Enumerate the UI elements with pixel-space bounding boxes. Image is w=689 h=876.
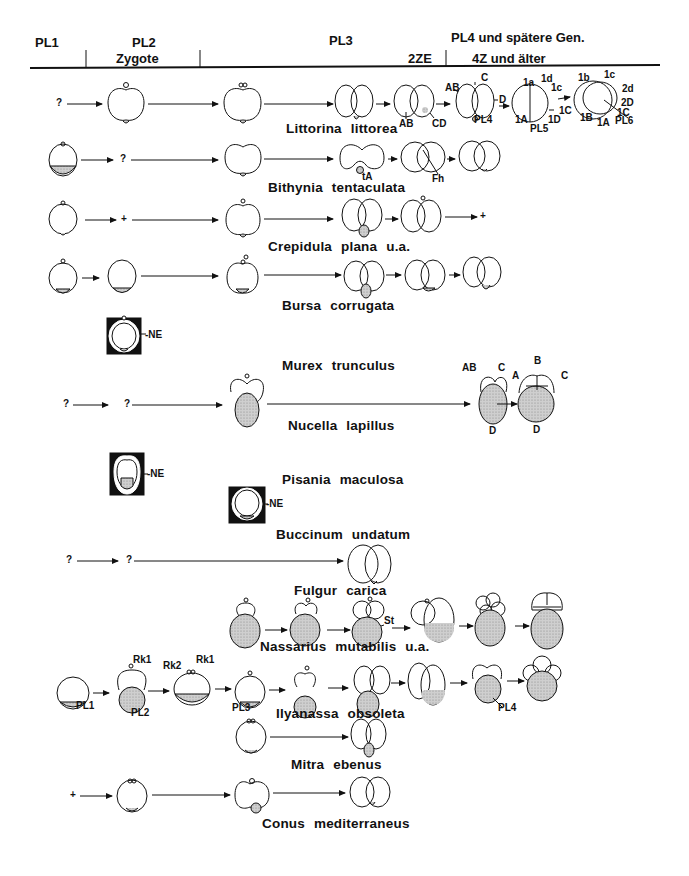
row-mitra: [236, 719, 386, 757]
cell-label: 1A: [597, 117, 610, 128]
cell-label: 2d: [622, 83, 634, 94]
cell-label: CD: [432, 118, 446, 129]
species-mitra-ebenus: Mitra ebenus: [291, 757, 382, 772]
cell-label: 1c: [604, 69, 615, 80]
species-nucella-lapillus: Nucella lapillus: [288, 418, 394, 433]
unknown-marker: ?: [124, 398, 130, 409]
unknown-marker: ?: [120, 153, 126, 164]
species-ilyanassa-obsoleta: Ilyanassa obsoleta: [276, 706, 405, 721]
cell-label: D: [533, 424, 540, 435]
cell-label: PL5: [530, 123, 548, 134]
row-conus: [80, 777, 390, 813]
cell-label: B: [534, 355, 541, 366]
species-buccinum-undatum: Buccinum undatum: [276, 527, 410, 542]
cell-label: Rk1: [196, 654, 214, 665]
cell-label: tA: [362, 171, 373, 182]
unknown-marker: ?: [63, 398, 69, 409]
row-murex: [107, 316, 146, 354]
species-conus-mediterraneus: Conus mediterraneus: [262, 816, 410, 831]
species-littorina-littorea: Littorina littorea: [286, 121, 397, 136]
cell-label: St: [384, 615, 394, 626]
species-nassarius-mutabilis: Nassarius mutabilis u.a.: [260, 639, 429, 654]
unknown-marker: ?: [56, 97, 62, 108]
ne-label: -NE: [266, 498, 283, 509]
row-fulgur: [77, 545, 391, 584]
cell-label: 1b: [578, 72, 590, 83]
cell-label: 1a: [523, 77, 534, 88]
cell-label: Rk2: [163, 660, 181, 671]
cell-label: C: [481, 72, 488, 83]
species-pisania-maculosa: Pisania maculosa: [282, 472, 404, 487]
cell-label: 1A: [515, 114, 528, 125]
cell-label: D: [499, 94, 506, 105]
cell-label: C: [561, 370, 568, 381]
absent-marker: +: [480, 210, 486, 221]
species-bithynia-tentaculata: Bithynia tentaculata: [268, 180, 405, 195]
ne-label: -NE: [145, 329, 162, 340]
unknown-marker: ?: [66, 554, 72, 565]
cell-label: PL4: [474, 114, 492, 125]
cell-label: C: [498, 362, 505, 373]
species-crepidula-plana: Crepidula plana u.a.: [268, 239, 410, 254]
cell-label: 1B: [580, 112, 593, 123]
species-murex-trunculus: Murex trunculus: [282, 358, 395, 373]
row-crepidula: [49, 196, 477, 237]
cell-label: AB: [399, 118, 413, 129]
cell-label: PL1: [76, 700, 94, 711]
species-fulgur-carica: Fulgur carica: [294, 583, 386, 598]
cell-label: A: [512, 370, 519, 381]
absent-marker: +: [70, 789, 76, 800]
absent-marker: +: [121, 213, 127, 224]
cell-label: D: [489, 425, 496, 436]
unknown-marker: ?: [126, 554, 132, 565]
cell-label: 1D: [548, 114, 561, 125]
cell-label: 1C: [559, 105, 572, 116]
cell-label: AB: [462, 362, 476, 373]
cell-label: AB: [445, 82, 459, 93]
cell-label: Fh: [432, 173, 444, 184]
row-pisania: [110, 453, 148, 495]
row-littorina: [67, 81, 628, 123]
ne-label: -NE: [147, 468, 164, 479]
row-buccinum: [229, 487, 268, 523]
cell-label: PL2: [131, 707, 149, 718]
row-bursa: [49, 255, 501, 298]
cell-label: 1c: [551, 82, 562, 93]
cell-label: PL3: [232, 702, 250, 713]
cell-label: PL4: [498, 702, 516, 713]
row-bithynia: [49, 141, 500, 176]
cell-label: Rk1: [133, 654, 151, 665]
cell-label: PL6: [615, 115, 633, 126]
species-bursa-corrugata: Bursa corrugata: [282, 298, 394, 313]
